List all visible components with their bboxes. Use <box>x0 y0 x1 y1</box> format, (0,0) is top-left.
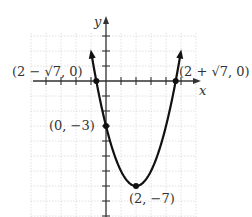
point-marker <box>103 123 109 129</box>
y-axis-label: y <box>93 14 102 29</box>
point-marker <box>133 183 139 189</box>
point-marker <box>173 78 179 84</box>
point-marker <box>93 78 99 84</box>
parabola-graph: y x (2 − √7, 0) (2 + √7, 0) (0, −3) (2, … <box>0 0 252 217</box>
root-right-label: (2 + √7, 0) <box>179 64 250 79</box>
y-intercept-label: (0, −3) <box>49 118 95 133</box>
vertex-label: (2, −7) <box>129 191 175 206</box>
root-left-label: (2 − √7, 0) <box>12 64 83 79</box>
axes <box>33 16 201 217</box>
x-axis-label: x <box>199 83 207 98</box>
